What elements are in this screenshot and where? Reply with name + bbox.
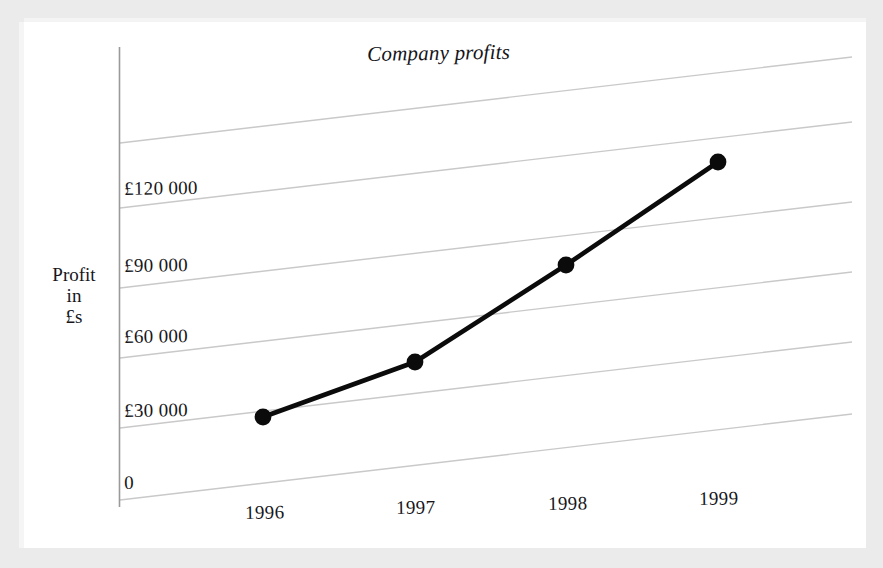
gridlines: [120, 57, 852, 500]
gridline-0: [120, 414, 852, 500]
gridline-120000: [120, 122, 852, 208]
x-tick-label-1998: 1998: [548, 492, 588, 515]
x-tick-label-1996: 1996: [245, 501, 285, 524]
gridline-150000: [120, 57, 852, 143]
y-tick-label-120000: £120 000: [124, 177, 198, 200]
data-point-1997: [407, 354, 424, 371]
line-chart: Company profits Profit in £s £120 000 £9…: [0, 0, 883, 568]
chart-title: Company profits: [367, 40, 510, 67]
data-point-1996: [255, 409, 272, 426]
data-line: [263, 162, 718, 417]
y-tick-label-60000: £60 000: [124, 325, 188, 348]
gridline-90000: [120, 202, 852, 288]
y-tick-label-30000: £30 000: [124, 399, 188, 422]
y-axis-title-line-2: in: [36, 285, 112, 306]
y-tick-label-90000: £90 000: [124, 254, 188, 277]
x-tick-label-1997: 1997: [396, 496, 436, 519]
y-axis-title-line-3: £s: [36, 306, 112, 327]
y-tick-label-0: 0: [124, 472, 134, 494]
x-tick-label-1999: 1999: [699, 487, 739, 510]
data-point-1999: [710, 154, 727, 171]
y-axis-title: Profit in £s: [36, 264, 112, 327]
gridline-30000: [120, 342, 852, 428]
y-axis-title-line-1: Profit: [36, 264, 112, 285]
data-point-1998: [558, 257, 575, 274]
